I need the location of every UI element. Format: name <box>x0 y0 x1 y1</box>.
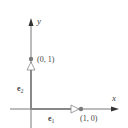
basis-vector-diagram: x y e1 e2 (1, 0) (0, 1) <box>0 0 128 128</box>
point-0-1-dot <box>29 57 33 61</box>
x-axis-arrow-icon <box>111 107 119 112</box>
x-axis-label: x <box>111 93 116 103</box>
open-triangle-arrow-icon <box>71 105 79 113</box>
point-0-1-label: (0, 1) <box>37 55 55 64</box>
vector-e2 <box>27 62 35 109</box>
point-1-0-label: (1, 0) <box>80 114 98 123</box>
y-axis-label: y <box>36 16 41 26</box>
y-axis-arrow-icon <box>29 18 34 26</box>
vector-e1 <box>31 105 79 113</box>
point-1-0-dot <box>79 107 83 111</box>
vector-e1-label: e1 <box>48 114 55 124</box>
vector-e2-label: e2 <box>17 84 24 94</box>
open-triangle-arrow-icon <box>27 62 35 70</box>
